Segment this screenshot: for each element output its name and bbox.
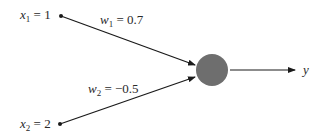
input-value: 1 xyxy=(44,7,51,22)
weight-value: 0.7 xyxy=(127,12,143,27)
weight-var: w xyxy=(100,12,109,27)
output-label-y: y xyxy=(303,63,309,76)
weight-label-w1: w1 = 0.7 xyxy=(100,13,143,26)
equals-sign: = xyxy=(30,7,44,22)
weight-label-w2: w2 = −0.5 xyxy=(88,82,139,95)
equals-sign: = xyxy=(113,12,127,27)
output-var: y xyxy=(303,62,309,77)
input-label-x2: x2 = 2 xyxy=(20,117,51,130)
neuron-node xyxy=(196,54,228,86)
input-value: 2 xyxy=(44,116,51,131)
input-label-x1: x1 = 1 xyxy=(20,8,51,21)
weight-var: w xyxy=(88,81,97,96)
weight-value: −0.5 xyxy=(115,81,139,96)
equals-sign: = xyxy=(30,116,44,131)
equals-sign: = xyxy=(101,81,115,96)
